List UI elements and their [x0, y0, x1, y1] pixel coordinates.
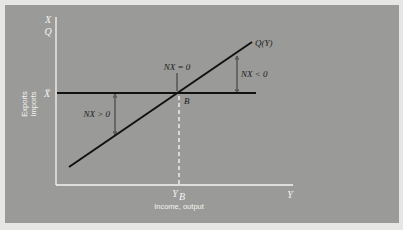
y-axis-label-q: Q [44, 26, 52, 37]
imports-curve-label: Q(Y) [255, 38, 273, 48]
yb-tick-subscript: B [179, 191, 185, 202]
balance-label: NX = 0 [163, 62, 191, 72]
y-axis-title-imports: Imports [29, 91, 38, 116]
x-axis-title: Income, output [154, 202, 205, 211]
y-axis-title-exports: Exports [20, 91, 29, 117]
surplus-label: NX > 0 [82, 109, 110, 119]
deficit-label: NX < 0 [240, 69, 268, 79]
x-axis-end-label: Y [287, 189, 294, 200]
imports-line [69, 42, 252, 167]
trade-balance-diagram: X Q X̄ Exports Imports NX = 0 NX < 0 NX … [0, 0, 403, 230]
intersection-label: B [184, 96, 190, 106]
y-axis-label-x: X [44, 14, 52, 25]
exports-level-label: X̄ [43, 88, 51, 99]
